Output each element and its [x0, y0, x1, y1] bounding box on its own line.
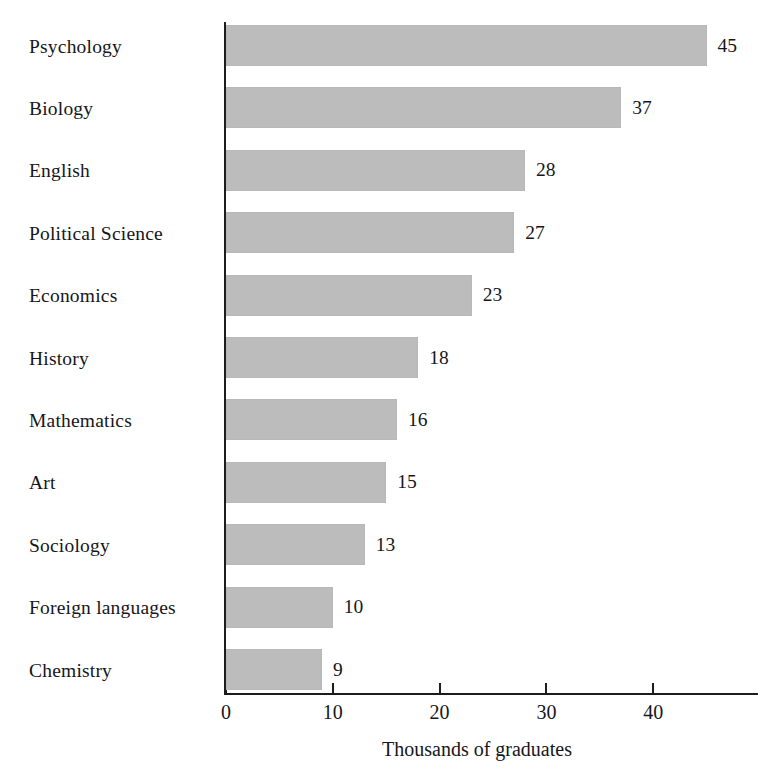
x-tick-label-20: 20 [430, 702, 450, 722]
bar [226, 337, 418, 378]
category-label: Chemistry [29, 661, 112, 681]
bar-value-label: 18 [429, 348, 449, 368]
x-axis-title-text: Thousands of graduates [212, 739, 572, 759]
category-label: Mathematics [29, 411, 132, 431]
bar [226, 649, 322, 690]
bar [226, 150, 525, 191]
bar-value-label: 37 [632, 98, 652, 118]
category-label: Sociology [29, 536, 110, 556]
bar-value-label: 13 [376, 535, 396, 555]
bar [226, 212, 514, 253]
bar-value-label: 10 [344, 597, 364, 617]
bar-value-label: 27 [525, 223, 545, 243]
category-label: History [29, 349, 89, 369]
category-label: Psychology [29, 37, 122, 57]
bar [226, 25, 707, 66]
bar-value-label: 9 [333, 660, 343, 680]
bar-value-label: 45 [718, 36, 738, 56]
category-label: Biology [29, 99, 93, 119]
bar [226, 587, 333, 628]
x-tick-40 [652, 683, 654, 694]
bar [226, 275, 472, 316]
bar-chart: 010203040 453728272318161513109 Psycholo… [0, 0, 784, 781]
x-tick-10 [332, 683, 334, 694]
category-label: Art [29, 474, 56, 494]
x-tick-label-30: 30 [536, 702, 556, 722]
bar-value-label: 15 [397, 473, 417, 493]
x-axis-title: Thousands of graduates [0, 739, 784, 759]
x-tick-label-40: 40 [643, 702, 663, 722]
bar [226, 399, 397, 440]
bar [226, 87, 621, 128]
category-label: Economics [29, 286, 117, 306]
x-tick-label-10: 10 [323, 702, 343, 722]
x-tick-label-0: 0 [221, 702, 231, 722]
x-tick-30 [545, 683, 547, 694]
bar [226, 462, 386, 503]
category-label: Political Science [29, 224, 163, 244]
bar [226, 524, 365, 565]
category-label: English [29, 162, 90, 182]
bar-value-label: 23 [483, 285, 503, 305]
bar-value-label: 28 [536, 161, 556, 181]
bar-value-label: 16 [408, 410, 428, 430]
category-label: Foreign languages [29, 598, 176, 618]
x-tick-20 [439, 683, 441, 694]
x-axis-line [224, 693, 758, 695]
